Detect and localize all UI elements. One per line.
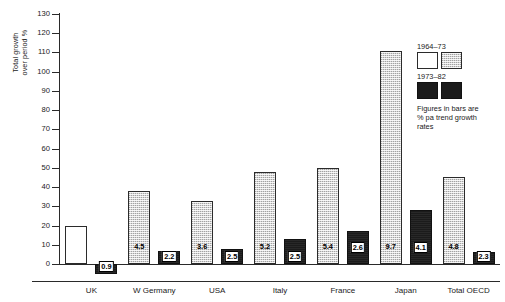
legend-label-first-period: 1964–73 xyxy=(417,42,503,51)
bar-chart-figure: Total growth over period % 1301201101009… xyxy=(0,0,505,302)
y-tick-mark xyxy=(52,226,60,227)
y-tick-label: 130 xyxy=(26,10,50,18)
category-label: France xyxy=(330,286,355,295)
y-axis-line xyxy=(59,13,60,265)
y-tick-mark xyxy=(52,206,60,207)
bar-value-label: 5.2 xyxy=(259,242,271,251)
category-label: W Germany xyxy=(133,286,176,295)
bar xyxy=(128,191,150,264)
bar xyxy=(191,201,213,264)
y-tick-label: 10 xyxy=(26,241,50,249)
y-tick-mark xyxy=(52,264,60,265)
y-tick-label: 120 xyxy=(26,29,50,37)
bar xyxy=(65,226,87,264)
y-tick-label: 60 xyxy=(26,145,50,153)
bar-value-label: 4.5 xyxy=(133,242,145,251)
legend-swatch-dark-1 xyxy=(417,82,438,99)
y-tick-mark xyxy=(52,110,60,111)
legend-swatches-first-period xyxy=(417,52,503,69)
zero-baseline xyxy=(59,264,500,265)
y-tick-label: 50 xyxy=(26,164,50,172)
bar-value-label: 2.6 xyxy=(351,242,365,253)
legend-label-second-period: 1973–82 xyxy=(417,72,503,81)
y-tick-mark xyxy=(52,91,60,92)
y-tick-label: 30 xyxy=(26,202,50,210)
y-tick-label: 110 xyxy=(26,48,50,56)
legend-swatch-dark-2 xyxy=(441,82,462,99)
bar xyxy=(410,210,432,264)
legend-swatch-white xyxy=(417,52,438,69)
legend-note: Figures in bars are % pa trend growth ra… xyxy=(417,105,503,131)
category-label: UK xyxy=(86,286,97,295)
legend-swatch-hatched xyxy=(441,52,462,69)
y-tick-mark xyxy=(52,129,60,130)
bar-value-label: 0.9 xyxy=(99,261,113,272)
category-label: Total OECD xyxy=(447,286,489,295)
bar-value-label: 2.3 xyxy=(476,251,490,262)
bar-value-label: 5.4 xyxy=(322,242,334,251)
y-tick-mark xyxy=(52,72,60,73)
y-tick-mark xyxy=(52,52,60,53)
y-tick-label: 100 xyxy=(26,68,50,76)
bar-value-label: 2.5 xyxy=(225,251,239,262)
legend: 1964–73 1973–82 Figures in bars are % pa… xyxy=(417,42,503,131)
y-tick-mark xyxy=(52,149,60,150)
y-tick-label: 70 xyxy=(26,125,50,133)
category-label: Japan xyxy=(395,286,417,295)
y-tick-label: 90 xyxy=(26,87,50,95)
bottom-rule xyxy=(32,281,500,282)
bar-value-label: 2.5 xyxy=(288,251,302,262)
y-tick-label: 80 xyxy=(26,106,50,114)
bar-value-label: 4.8 xyxy=(447,242,459,251)
bar-value-label: 2.2 xyxy=(162,251,176,262)
category-label: Italy xyxy=(273,286,288,295)
bar-value-label: 9.7 xyxy=(385,242,397,251)
bar-value-label: 4.1 xyxy=(414,242,428,253)
y-tick-label: 40 xyxy=(26,183,50,191)
y-tick-mark xyxy=(52,187,60,188)
bar xyxy=(380,51,402,264)
y-tick-label: 0 xyxy=(26,260,50,268)
category-label: USA xyxy=(209,286,225,295)
legend-swatches-second-period xyxy=(417,82,503,99)
bar-value-label: 3.6 xyxy=(196,242,208,251)
y-tick-mark xyxy=(52,168,60,169)
bar xyxy=(443,177,465,264)
y-tick-mark xyxy=(52,33,60,34)
y-tick-label: 20 xyxy=(26,222,50,230)
y-tick-mark xyxy=(52,245,60,246)
y-tick-mark xyxy=(52,14,60,15)
